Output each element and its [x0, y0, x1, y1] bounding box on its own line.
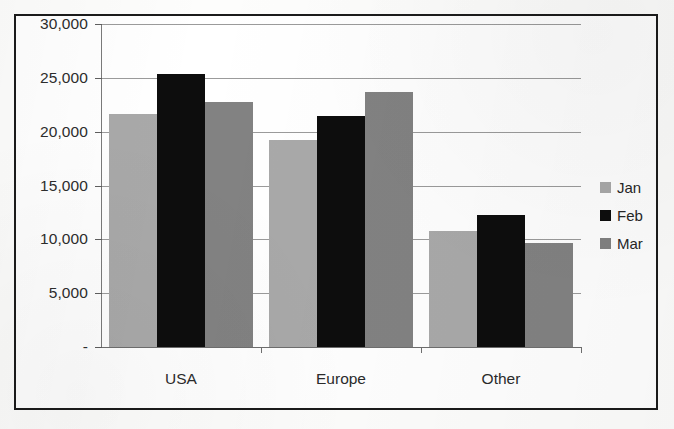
y-tick-mark-5000	[95, 293, 102, 294]
chart-legend: JanFebMar	[600, 173, 656, 257]
legend-swatch-icon	[600, 182, 611, 193]
bar-europe-jan	[269, 140, 317, 347]
y-tick-mark-0	[95, 347, 102, 348]
y-axis-tick-label: 20,000	[0, 123, 88, 141]
chart-screenshot: -5,00010,00015,00020,00025,00030,000 Jan…	[0, 0, 674, 429]
x-axis-category-label: Other	[482, 370, 521, 388]
y-tick-mark-30000	[95, 24, 102, 25]
bar-usa-jan	[109, 114, 157, 347]
legend-item-mar[interactable]: Mar	[600, 229, 656, 257]
legend-label: Mar	[617, 235, 643, 252]
y-tick-mark-20000	[95, 132, 102, 133]
x-axis-category-label: Europe	[316, 370, 366, 388]
bar-usa-feb	[157, 74, 205, 347]
legend-item-feb[interactable]: Feb	[600, 201, 656, 229]
gridline-30000	[101, 24, 581, 25]
y-tick-mark-25000	[95, 78, 102, 79]
bar-europe-mar	[365, 92, 413, 347]
y-axis-tick-label: 25,000	[0, 69, 88, 87]
bar-usa-mar	[205, 102, 253, 347]
gridline-0	[101, 347, 581, 348]
y-axis-tick-label: -	[0, 338, 88, 356]
x-axis-tick-mark	[261, 347, 262, 353]
legend-swatch-icon	[600, 238, 611, 249]
y-axis-tick-label: 5,000	[0, 284, 88, 302]
y-tick-mark-10000	[95, 239, 102, 240]
bar-other-jan	[429, 231, 477, 347]
x-axis-tick-mark	[581, 347, 582, 353]
bar-other-mar	[525, 243, 573, 347]
bar-other-feb	[477, 215, 525, 347]
y-axis-tick-label: 30,000	[0, 15, 88, 33]
x-axis-tick-mark	[421, 347, 422, 353]
y-tick-mark-15000	[95, 186, 102, 187]
legend-label: Feb	[617, 207, 643, 224]
x-axis-category-label: USA	[165, 370, 197, 388]
bar-europe-feb	[317, 116, 365, 347]
y-axis-tick-label: 15,000	[0, 177, 88, 195]
legend-label: Jan	[617, 179, 641, 196]
y-axis-tick-label: 10,000	[0, 230, 88, 248]
y-axis-labels: -5,00010,00015,00020,00025,00030,000	[0, 0, 88, 429]
legend-item-jan[interactable]: Jan	[600, 173, 656, 201]
legend-swatch-icon	[600, 210, 611, 221]
plot-area	[101, 24, 581, 347]
